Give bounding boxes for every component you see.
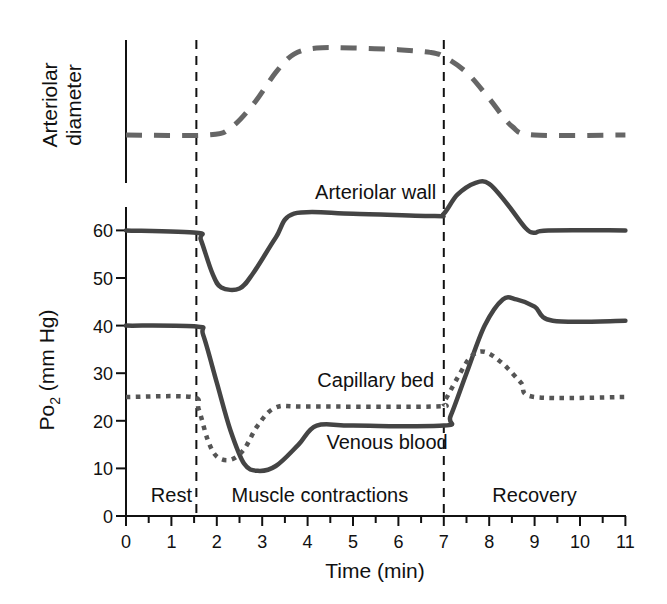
x-tick-label: 7 <box>439 532 449 552</box>
x-tick-label: 5 <box>348 532 358 552</box>
y-tick-label: 20 <box>93 412 113 432</box>
phase-label-recovery: Recovery <box>492 484 576 506</box>
x-axis-label: Time (min) <box>325 559 425 582</box>
x-ticks: 01234567891011 <box>121 516 635 552</box>
x-tick-label: 3 <box>257 532 267 552</box>
y-tick-label: 50 <box>93 269 113 289</box>
x-tick-label: 4 <box>303 532 313 552</box>
x-tick-label: 1 <box>166 532 176 552</box>
y-ticks: 0102030405060 <box>93 221 126 527</box>
y-axis-label: Po2 (mm Hg) <box>35 310 63 431</box>
phase-label-rest: Rest <box>151 484 193 506</box>
series-label-arteriolar-wall: Arteriolar wall <box>315 181 436 203</box>
y-tick-label: 60 <box>93 221 113 241</box>
x-tick-label: 0 <box>121 532 131 552</box>
phase-label-muscle-contractions: Muscle contractions <box>231 484 408 506</box>
x-tick-label: 2 <box>212 532 222 552</box>
series-label-venous-blood: Venous blood <box>326 431 447 453</box>
x-tick-label: 8 <box>484 532 494 552</box>
phase-labels: RestMuscle contractionsRecovery <box>151 484 577 506</box>
x-tick-label: 6 <box>393 532 403 552</box>
y-tick-label: 0 <box>103 507 113 527</box>
top-panel-label: Arteriolardiameter <box>38 62 85 147</box>
series-labels: Arteriolar wallVenous bloodCapillary bed <box>315 181 448 453</box>
x-tick-label: 11 <box>616 532 635 552</box>
y-tick-label: 40 <box>93 317 113 337</box>
y-tick-label: 10 <box>93 459 113 479</box>
series-lines <box>126 47 625 470</box>
series-arteriolar-diameter <box>126 47 625 135</box>
series-label-capillary-bed: Capillary bed <box>317 369 434 391</box>
x-tick-label: 9 <box>530 532 540 552</box>
x-tick-label: 10 <box>570 532 590 552</box>
y-tick-label: 30 <box>93 364 113 384</box>
chart: 01234567891011 0102030405060 Arteriolar … <box>0 0 667 604</box>
